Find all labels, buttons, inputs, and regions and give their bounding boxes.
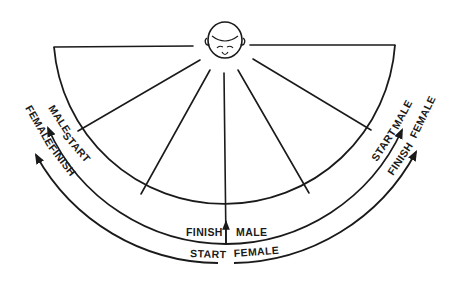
label-bottom-male: MALE xyxy=(236,226,267,238)
sector-line-4 xyxy=(238,70,309,193)
head-icon xyxy=(205,22,245,58)
label-right-female: FEMALE xyxy=(407,94,438,140)
sector-line-5 xyxy=(253,59,371,130)
label-bottom-female: FEMALE xyxy=(233,244,279,259)
visual-field-diagram: MALE START FEMALE FINISH START MALE FINI… xyxy=(0,0,455,287)
sector-lines xyxy=(78,59,371,244)
sector-line-3 xyxy=(224,73,226,244)
label-bottom-finish: FINISH xyxy=(186,226,223,238)
label-bottom-start: START xyxy=(190,247,227,260)
